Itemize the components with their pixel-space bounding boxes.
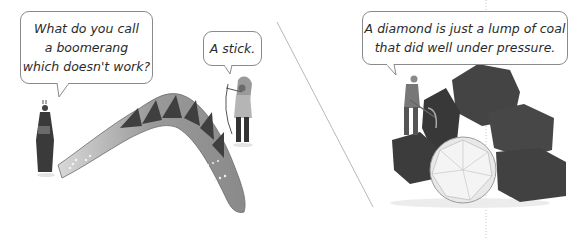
- speech-bubble-diamond-joke: A diamond is just a lump of coal that di…: [362, 11, 568, 65]
- diamond-joke-line-1: A diamond is just a lump of coal: [365, 19, 566, 38]
- speech-bubble-diamond-joke-tail: [384, 63, 402, 77]
- diamond-joke-line-2: that did well under pressure.: [375, 38, 556, 57]
